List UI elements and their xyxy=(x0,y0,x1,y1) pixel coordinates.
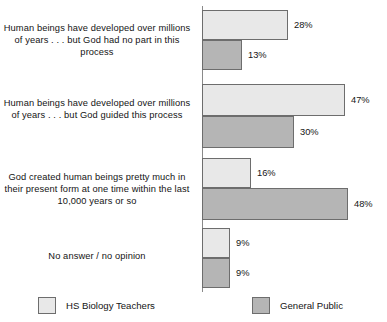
bar-teachers-4 xyxy=(202,228,230,258)
bar-value-public-3: 48% xyxy=(354,199,373,209)
category-group-1: Human beings have developed over million… xyxy=(0,10,387,70)
legend-item-general-public: General Public xyxy=(252,297,343,314)
category-group-3: God created human beings pretty much in … xyxy=(0,158,387,220)
bar-teachers-2 xyxy=(202,84,345,116)
bar-public-1 xyxy=(202,40,242,70)
category-label-1: Human beings have developed over million… xyxy=(0,22,195,59)
category-group-2: Human beings have developed over million… xyxy=(0,84,387,146)
legend-item-hs-biology-teachers: HS Biology Teachers xyxy=(38,297,155,314)
bar-value-public-4: 9% xyxy=(236,268,249,278)
legend-swatch-icon-public xyxy=(252,297,270,314)
category-group-4: No answer / no opinion 9% 9% xyxy=(0,228,387,288)
category-label-4: No answer / no opinion xyxy=(0,250,195,262)
chart-legend: HS Biology Teachers General Public xyxy=(0,292,387,322)
bar-value-public-1: 13% xyxy=(248,50,267,60)
grouped-bar-chart: Human beings have developed over million… xyxy=(0,0,387,322)
bar-teachers-3 xyxy=(202,158,251,188)
bar-value-teachers-3: 16% xyxy=(257,168,276,178)
legend-swatch-icon-teachers xyxy=(38,297,56,314)
legend-label-teachers: HS Biology Teachers xyxy=(66,300,155,311)
category-label-3: God created human beings pretty much in … xyxy=(0,171,195,208)
bar-teachers-1 xyxy=(202,10,288,40)
bar-value-teachers-1: 28% xyxy=(294,20,313,30)
bar-public-2 xyxy=(202,116,294,148)
bar-value-teachers-2: 47% xyxy=(351,95,370,105)
category-label-2: Human beings have developed over million… xyxy=(0,97,195,121)
bar-value-teachers-4: 9% xyxy=(236,238,249,248)
bar-public-3 xyxy=(202,188,348,220)
legend-label-public: General Public xyxy=(280,300,343,311)
bar-public-4 xyxy=(202,258,230,288)
plot-area: Human beings have developed over million… xyxy=(0,0,387,292)
bar-value-public-2: 30% xyxy=(300,127,319,137)
